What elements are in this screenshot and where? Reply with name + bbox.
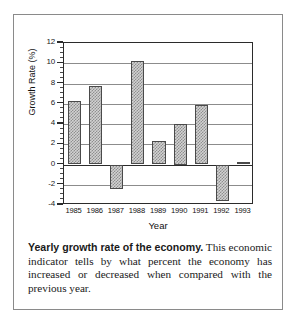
bar-1988 (131, 61, 144, 164)
y-tick-label: -2 (48, 180, 55, 188)
x-axis-title: Year (63, 220, 253, 231)
y-tick-label: 8 (51, 79, 55, 87)
y-tick-label: 2 (51, 139, 55, 147)
bar-1992 (216, 165, 229, 201)
x-tick-label-1986: 1986 (87, 206, 103, 215)
y-tick-label: 10 (47, 58, 56, 66)
bar-1985 (68, 101, 81, 165)
bar-1987 (110, 165, 123, 189)
x-tick-label-1989: 1989 (150, 206, 166, 215)
y-tick-label: 0 (51, 160, 55, 168)
bar-1991 (195, 105, 208, 165)
x-tick-label-1993: 1993 (234, 206, 250, 215)
x-tick-label-1992: 1992 (213, 206, 229, 215)
y-tick-label: 12 (47, 38, 56, 46)
bar-1993 (237, 162, 250, 164)
bar-chart: Growth Rate (%) 121086420-2-4 1985198619… (14, 15, 284, 237)
bars-group (64, 43, 252, 203)
figure-caption: Yearly growth rate of the economy. This … (28, 241, 272, 295)
plot-area (63, 42, 253, 204)
figure-card: Growth Rate (%) 121086420-2-4 1985198619… (13, 14, 283, 310)
bar-1990 (174, 124, 187, 165)
y-axis: 121086420-2-4 (14, 42, 63, 204)
caption-lead: Yearly growth rate of the economy. (28, 241, 203, 253)
x-tick-label-1991: 1991 (192, 206, 208, 215)
bar-1986 (89, 86, 102, 165)
bar-1989 (152, 141, 165, 164)
x-tick-label-1988: 1988 (129, 206, 145, 215)
x-tick-label-1987: 1987 (108, 206, 124, 215)
y-tick-label: 6 (51, 99, 55, 107)
y-tick-label: 4 (51, 119, 55, 127)
x-tick-label-1990: 1990 (171, 206, 187, 215)
y-tick-label: -4 (48, 200, 55, 208)
x-tick-label-1985: 1985 (66, 206, 82, 215)
